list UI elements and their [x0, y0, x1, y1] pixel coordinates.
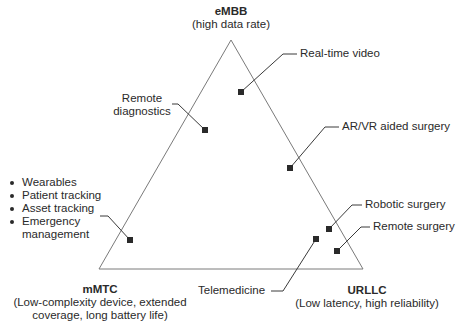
label-telemedicine: Telemedicine — [198, 284, 265, 297]
corner-label-embb: eMBB (high data rate) — [181, 5, 281, 31]
marker-remote-diagnostics — [202, 127, 208, 133]
corner-label-urllc: URLLC (Low latency, high reliability) — [292, 284, 442, 310]
corner-label-mmtc: mMTC (Low-complexity device, extended co… — [10, 283, 190, 322]
leader-mmtc-apps — [100, 216, 130, 240]
service-triangle — [99, 40, 363, 269]
urllc-subtitle: (Low latency, high reliability) — [292, 297, 442, 310]
marker-remote-surgery — [334, 248, 340, 254]
mmtc-title: mMTC — [10, 283, 190, 296]
leader-remote-diagnostics — [172, 104, 205, 130]
marker-real-time-video — [238, 89, 244, 95]
label-ar-vr-surgery: AR/VR aided surgery — [342, 120, 450, 133]
marker-mmtc-apps — [127, 237, 133, 243]
marker-telemedicine — [313, 236, 319, 242]
label-robotic-surgery: Robotic surgery — [365, 198, 446, 211]
label-remote-surgery: Remote surgery — [373, 220, 455, 233]
marker-ar-vr-surgery — [287, 165, 293, 171]
list-item-emergency-management: Emergency management — [8, 215, 101, 241]
label-real-time-video: Real-time video — [300, 47, 380, 60]
remote-diagnostics-line2: diagnostics — [112, 105, 172, 118]
label-remote-diagnostics: Remote diagnostics — [112, 92, 172, 118]
list-item-asset-tracking: Asset tracking — [8, 202, 101, 215]
list-item-patient-tracking: Patient tracking — [8, 189, 101, 202]
leader-ar-vr-surgery — [290, 127, 339, 168]
remote-diagnostics-line1: Remote — [112, 92, 172, 105]
list-item-wearables: Wearables — [8, 176, 101, 189]
mmtc-applications-list: Wearables Patient tracking Asset trackin… — [8, 176, 101, 241]
leader-robotic-surgery — [329, 205, 362, 229]
urllc-title: URLLC — [292, 284, 442, 297]
mmtc-subtitle: (Low-complexity device, extended coverag… — [10, 296, 190, 322]
leader-remote-surgery — [337, 227, 370, 251]
embb-subtitle: (high data rate) — [181, 18, 281, 31]
leader-real-time-video — [241, 54, 297, 92]
marker-robotic-surgery — [326, 226, 332, 232]
embb-title: eMBB — [181, 5, 281, 18]
